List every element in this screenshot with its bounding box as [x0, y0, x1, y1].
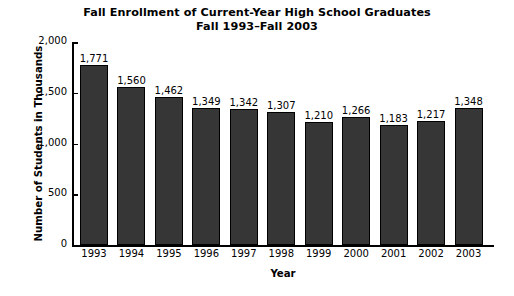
bar-group: 1,1832001: [380, 42, 408, 245]
bar: 1,771: [80, 65, 108, 245]
bar-value-label: 1,342: [229, 97, 258, 108]
bar-group: 1,7711993: [80, 42, 108, 245]
x-axis-tick-label: 2002: [418, 248, 443, 259]
x-axis-tick-label: 1993: [81, 248, 106, 259]
y-axis-tick-label: 2,000: [38, 35, 67, 46]
x-axis-tick-label: 2003: [456, 248, 481, 259]
x-axis-tick-label: 2000: [343, 248, 368, 259]
bar-group: 1,2172002: [417, 42, 445, 245]
bar-group: 1,4621995: [155, 42, 183, 245]
chart-title-block: Fall Enrollment of Current-Year High Sch…: [0, 6, 514, 34]
bar-value-label: 1,217: [417, 109, 446, 120]
x-axis-tick-label: 1996: [194, 248, 219, 259]
bar-group: 1,2662000: [342, 42, 370, 245]
bar: 1,266: [342, 117, 370, 245]
y-axis-tick-label: 1,000: [38, 137, 67, 148]
x-axis-tick-label: 1998: [269, 248, 294, 259]
bar-group: 1,3071998: [267, 42, 295, 245]
bar-value-label: 1,266: [342, 105, 371, 116]
bar-series: 1,77119931,56019941,46219951,34919961,34…: [72, 42, 494, 245]
x-axis-tick-label: 1995: [156, 248, 181, 259]
x-axis-tick-label: 1999: [306, 248, 331, 259]
bar: 1,307: [267, 112, 295, 245]
y-axis-tick-label: 500: [48, 187, 67, 198]
y-axis-tick-label: 0: [61, 238, 67, 249]
bar: 1,217: [417, 121, 445, 245]
bar-value-label: 1,462: [155, 85, 184, 96]
bar-value-label: 1,349: [192, 96, 221, 107]
bar-group: 1,3482003: [455, 42, 483, 245]
bar-group: 1,2101999: [305, 42, 333, 245]
bar-value-label: 1,307: [267, 100, 296, 111]
bar: 1,560: [117, 87, 145, 245]
bar-value-label: 1,183: [379, 113, 408, 124]
y-axis-tick: 0: [72, 245, 78, 247]
chart-title: Fall Enrollment of Current-Year High Sch…: [0, 6, 514, 20]
bar: 1,349: [192, 108, 220, 245]
x-axis-tick-label: 1997: [231, 248, 256, 259]
bar-value-label: 1,210: [304, 110, 333, 121]
x-axis-tick-label: 2001: [381, 248, 406, 259]
bar-group: 1,5601994: [117, 42, 145, 245]
bar-value-label: 1,560: [117, 75, 146, 86]
plot-area: 05001,0001,5002,000 1,77119931,56019941,…: [72, 42, 494, 245]
bar: 1,183: [380, 125, 408, 245]
bar-value-label: 1,348: [454, 96, 483, 107]
y-axis-tick-label: 1,500: [38, 86, 67, 97]
bar: 1,342: [230, 109, 258, 245]
bar: 1,462: [155, 97, 183, 245]
chart-subtitle: Fall 1993–Fall 2003: [0, 20, 514, 34]
bar: 1,210: [305, 122, 333, 245]
x-axis-line: [72, 245, 494, 247]
x-axis-tick-label: 1994: [119, 248, 144, 259]
bar-group: 1,3421997: [230, 42, 258, 245]
bar: 1,348: [455, 108, 483, 245]
bar-value-label: 1,771: [80, 53, 109, 64]
bar-group: 1,3491996: [192, 42, 220, 245]
x-axis-title: Year: [72, 268, 494, 279]
bar-chart-figure: Fall Enrollment of Current-Year High Sch…: [0, 0, 514, 296]
